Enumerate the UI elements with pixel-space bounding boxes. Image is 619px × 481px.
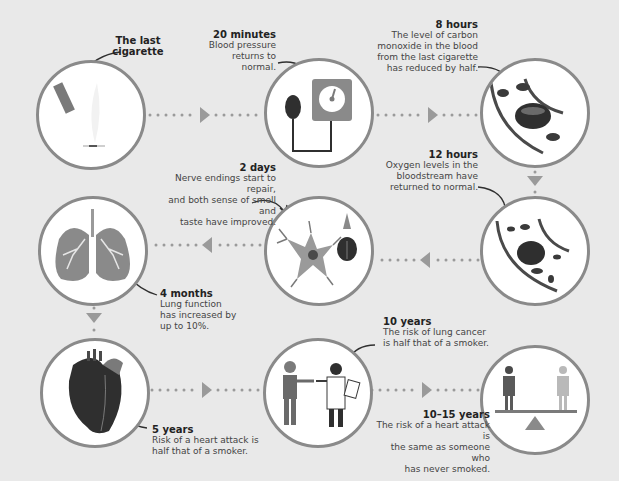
step-circle-10-years xyxy=(263,338,373,448)
nerve-cell-icon xyxy=(267,199,371,303)
step-label-last-cigarette: The last cigarette xyxy=(108,35,168,57)
lungs-icon xyxy=(41,199,145,303)
step-circle-8-hours xyxy=(480,58,590,168)
step-circle-last-cigarette xyxy=(36,60,146,170)
step-label-4-months: 4 months Lung function has increased by … xyxy=(160,288,240,332)
blood-vessel-icon xyxy=(483,199,587,303)
cigarette-icon xyxy=(39,63,143,167)
step-label-20-minutes: 20 minutes Blood pressure returns to nor… xyxy=(198,29,276,73)
step-label-12-hours: 12 hours Oxygen levels in the bloodstrea… xyxy=(380,149,478,193)
connector-8-9 xyxy=(371,382,480,398)
step-label-10-15-years: 10–15 years The risk of a heart attack i… xyxy=(370,409,490,475)
step-label-8-hours: 8 hours The level of carbon monoxide in … xyxy=(376,19,478,74)
connector-3-4 xyxy=(527,171,543,194)
step-circle-12-hours xyxy=(480,196,590,306)
step-label-10-years: 10 years The risk of lung cancer is half… xyxy=(383,316,493,349)
step-circle-20-minutes xyxy=(264,58,374,168)
step-circle-4-months xyxy=(38,196,148,306)
doctor-handshake-icon xyxy=(266,341,370,445)
step-circle-2-days xyxy=(264,196,374,306)
connector-5-6 xyxy=(155,237,262,253)
connector-7-8 xyxy=(151,382,260,398)
heart-icon xyxy=(43,341,147,445)
blood-cells-icon xyxy=(483,61,587,165)
connector-6-7 xyxy=(86,307,102,332)
connector-4-5 xyxy=(381,252,480,268)
connector-2-3 xyxy=(377,107,478,123)
balance-scale-icon xyxy=(483,348,587,452)
blood-pressure-monitor-icon xyxy=(267,61,371,165)
step-circle-10-15-years xyxy=(480,345,590,455)
connector-1-2 xyxy=(149,107,258,123)
step-label-5-years: 5 years Risk of a heart attack is half t… xyxy=(152,424,262,457)
step-circle-5-years xyxy=(40,338,150,448)
step-label-2-days: 2 days Nerve endings start to repair, an… xyxy=(150,162,276,228)
